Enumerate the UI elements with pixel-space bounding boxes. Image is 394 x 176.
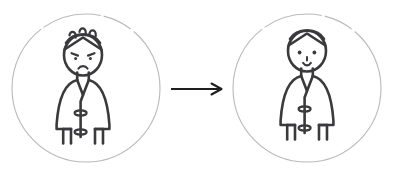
panel-after xyxy=(233,14,381,162)
gown-lapel xyxy=(77,80,89,95)
gown-lapel xyxy=(301,76,313,91)
head-outline xyxy=(64,35,102,76)
eye-dot-left xyxy=(298,51,302,55)
gown-left-panel xyxy=(57,80,78,129)
mouth-smile-icon xyxy=(303,63,311,65)
before-after-illustration xyxy=(0,0,394,176)
gown-left-panel xyxy=(281,76,302,125)
eye-pupil-right xyxy=(89,57,92,60)
eye-pupil-left xyxy=(74,57,77,60)
eye-dot-right xyxy=(313,51,317,55)
eyes-sad-icon xyxy=(72,53,95,55)
figure-after xyxy=(281,31,334,140)
panel-before xyxy=(12,14,160,162)
transformation-arrow-icon xyxy=(171,84,222,95)
illustration-stage xyxy=(0,0,394,176)
gown-right-panel xyxy=(313,76,334,125)
mouth-frown-icon xyxy=(79,66,88,68)
gown-right-panel xyxy=(89,80,110,129)
figure-before xyxy=(57,28,110,143)
